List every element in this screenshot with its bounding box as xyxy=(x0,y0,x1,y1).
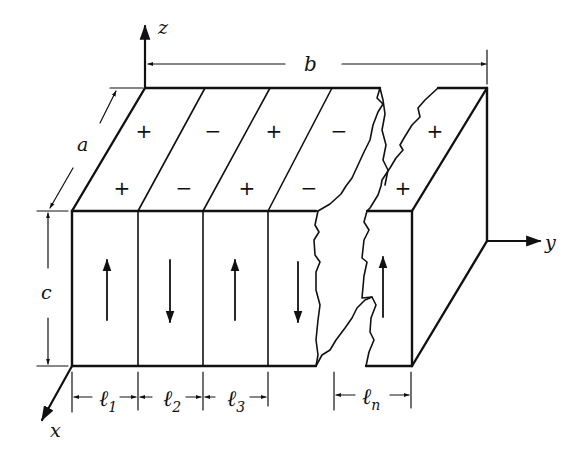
domain-width-labels: ℓ1 ℓ2 ℓ3 ℓn xyxy=(99,384,380,415)
ln-label: ℓn xyxy=(362,384,380,413)
l2-label: ℓ2 xyxy=(163,386,181,415)
x-axis xyxy=(42,366,72,420)
dimension-a-label: a xyxy=(77,133,88,155)
dimension-c-label: c xyxy=(41,281,52,303)
right-face xyxy=(412,88,487,366)
l1-label: ℓ1 xyxy=(99,386,117,415)
magnetization-arrows xyxy=(107,257,383,322)
svg-text:+: + xyxy=(136,119,153,143)
svg-text:−: − xyxy=(205,119,222,143)
l3-label: ℓ3 xyxy=(227,386,245,415)
svg-text:−: − xyxy=(331,119,348,143)
svg-text:+: + xyxy=(395,176,412,200)
svg-text:+: + xyxy=(266,119,283,143)
x-axis-label: x xyxy=(50,419,61,441)
front-face xyxy=(72,211,412,366)
top-face-signs: + − + − + + − + − + xyxy=(114,119,444,200)
domain-block-diagram: z y x b a c ℓ1 ℓ2 ℓ3 ℓn + − + − + + − + … xyxy=(0,0,585,457)
dimension-b xyxy=(148,50,487,84)
top-face xyxy=(72,88,487,211)
svg-text:+: + xyxy=(114,176,131,200)
y-axis-label: y xyxy=(544,231,556,253)
svg-text:+: + xyxy=(239,176,256,200)
svg-text:−: − xyxy=(176,176,193,200)
dimension-b-label: b xyxy=(304,52,317,76)
svg-text:+: + xyxy=(427,119,444,143)
svg-text:−: − xyxy=(301,176,318,200)
z-axis-label: z xyxy=(157,16,169,38)
